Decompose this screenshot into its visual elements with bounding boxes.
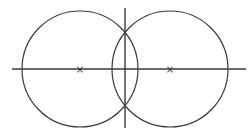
left-center-marker: × bbox=[76, 64, 84, 75]
diagram-canvas: × × bbox=[0, 0, 252, 138]
right-center-marker: × bbox=[166, 64, 174, 75]
